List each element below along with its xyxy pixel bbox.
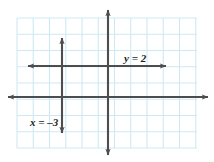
coordinate-plane-figure: y = 2x = –3: [0, 0, 214, 162]
label-x-equals-neg3: x = –3: [29, 116, 59, 128]
graph-canvas: y = 2x = –3: [0, 0, 214, 162]
equation-labels: y = 2x = –3: [29, 52, 147, 128]
label-y-equals-2: y = 2: [122, 52, 147, 64]
